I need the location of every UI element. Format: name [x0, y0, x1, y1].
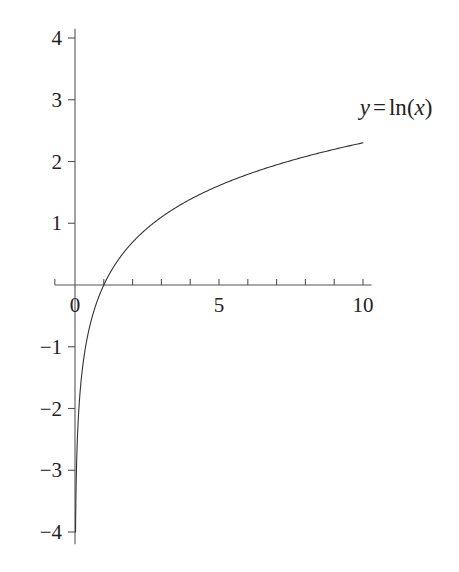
plot-canvas [0, 0, 459, 572]
y-axis-tick-label: −3 [40, 460, 62, 481]
y-axis-tick-label: 2 [52, 151, 63, 172]
y-axis-tick-label: 4 [52, 28, 63, 49]
annotation-lhs: y [360, 95, 370, 120]
plot-figure: 05104321−1−2−3−4 y=ln(x) [0, 0, 459, 572]
x-axis-tick-label: 0 [70, 295, 81, 316]
annotation-function: ln [389, 95, 407, 120]
curve-label-annotation: y=ln(x) [360, 96, 433, 119]
y-axis-tick-label: 3 [52, 89, 63, 110]
y-axis-tick-label: −4 [40, 522, 62, 543]
x-axis-tick-label: 5 [214, 295, 225, 316]
y-axis-tick-label: −1 [40, 336, 62, 357]
annotation-close-paren: ) [425, 95, 433, 120]
axes-group [55, 29, 372, 545]
annotation-argument: x [415, 95, 425, 120]
annotation-open-paren: ( [407, 95, 415, 120]
data-series-group [76, 143, 363, 532]
y-axis-tick-label: −2 [40, 398, 62, 419]
x-axis-tick-label: 10 [353, 295, 374, 316]
series-line [76, 143, 363, 532]
y-axis-tick-label: 1 [52, 213, 63, 234]
annotation-operator: = [370, 95, 389, 120]
